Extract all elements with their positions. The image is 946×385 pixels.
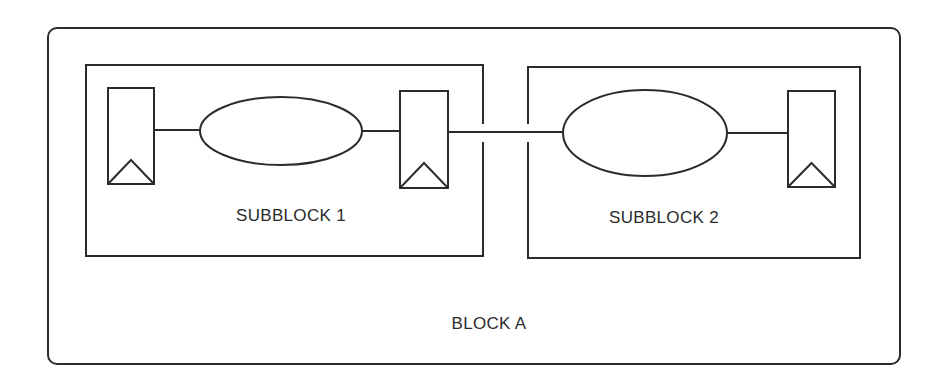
subblock-2-label: SUBBLOCK 2 — [609, 208, 719, 228]
subblock-1-label: SUBBLOCK 1 — [236, 206, 346, 226]
ff-3-flip-flop — [788, 91, 835, 187]
subblocks — [86, 65, 860, 258]
flip-flop-body — [788, 91, 835, 187]
ff-1-flip-flop — [108, 88, 154, 184]
block-a-label: BLOCK A — [452, 314, 527, 334]
flip-flop-body — [400, 91, 448, 188]
flip-flop-body — [108, 88, 154, 184]
ff-2-flip-flop — [400, 91, 448, 188]
logic-2-combinational-logic-ellipse — [563, 90, 727, 176]
logic-1-combinational-logic-ellipse — [200, 97, 362, 165]
